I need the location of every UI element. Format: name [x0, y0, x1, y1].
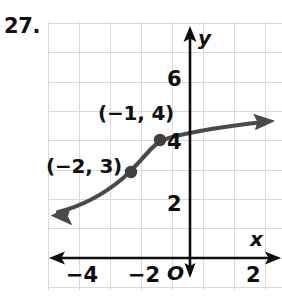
origin-label: O [167, 263, 184, 283]
x-tick-minus4: −4 [66, 265, 98, 286]
graph-figure: 27. [0, 0, 282, 298]
axis-arrowheads [49, 26, 281, 278]
x-tick-2: 2 [246, 265, 261, 286]
point-minus1-4 [154, 134, 166, 146]
annotation-minus2-3: (−2, 3) [46, 156, 122, 176]
y-tick-6: 6 [167, 69, 182, 90]
y-tick-4: 4 [167, 132, 182, 153]
annotation-minus1-4: (−1, 4) [98, 103, 174, 123]
coordinate-plane: y x O 6 4 2 −4 −2 2 (−1, 4) (−2, 3) [48, 22, 282, 290]
y-tick-2: 2 [167, 194, 182, 215]
problem-number: 27. [4, 16, 40, 37]
y-axis-label: y [198, 28, 211, 48]
point-minus2-3 [125, 166, 137, 178]
x-axis-label: x [250, 229, 263, 249]
x-tick-minus2: −2 [128, 265, 160, 286]
